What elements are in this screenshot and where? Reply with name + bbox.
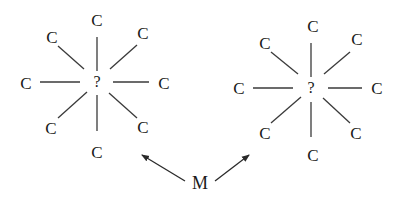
metal-label: M: [192, 173, 208, 193]
spoke-bottom-right: [109, 93, 137, 118]
right-atom-bottom-right: C: [350, 124, 361, 143]
spoke-top-right: [110, 45, 137, 69]
left-atom-top: C: [91, 11, 102, 30]
metal-bridge: M: [142, 155, 249, 193]
left-atom-left: C: [20, 74, 31, 93]
left-atom-bottom: C: [91, 143, 102, 162]
right-atom-top-right: C: [351, 30, 362, 49]
left-center-atom: ?: [93, 73, 100, 90]
diagram-canvas: ? C C C C C C C C ? C C: [0, 0, 404, 200]
right-cluster: ? C C C C C C C C: [233, 17, 382, 165]
right-center-atom: ?: [307, 79, 314, 96]
spoke-top-left: [58, 46, 84, 69]
left-atom-right: C: [158, 74, 169, 93]
left-atom-bottom-left: C: [45, 119, 56, 138]
spoke-top-right: [324, 52, 350, 74]
right-atom-bottom-left: C: [259, 124, 270, 143]
right-atom-top-left: C: [259, 34, 270, 53]
spoke-top-left: [271, 52, 298, 74]
right-atom-top: C: [307, 17, 318, 36]
spoke-bottom-right: [323, 98, 350, 123]
arrow-to-right-cluster: [215, 155, 249, 181]
right-atom-bottom: C: [307, 146, 318, 165]
left-atom-bottom-right: C: [137, 118, 148, 137]
left-atom-top-left: C: [46, 28, 57, 47]
cluster-diagram: ? C C C C C C C C ? C C: [0, 0, 404, 200]
left-cluster: ? C C C C C C C C: [20, 11, 169, 162]
right-atom-right: C: [371, 79, 382, 98]
spoke-bottom-left: [58, 92, 87, 118]
spoke-bottom-left: [271, 97, 301, 123]
right-atom-left: C: [233, 79, 244, 98]
left-atom-top-right: C: [137, 24, 148, 43]
arrow-to-left-cluster: [142, 155, 185, 181]
